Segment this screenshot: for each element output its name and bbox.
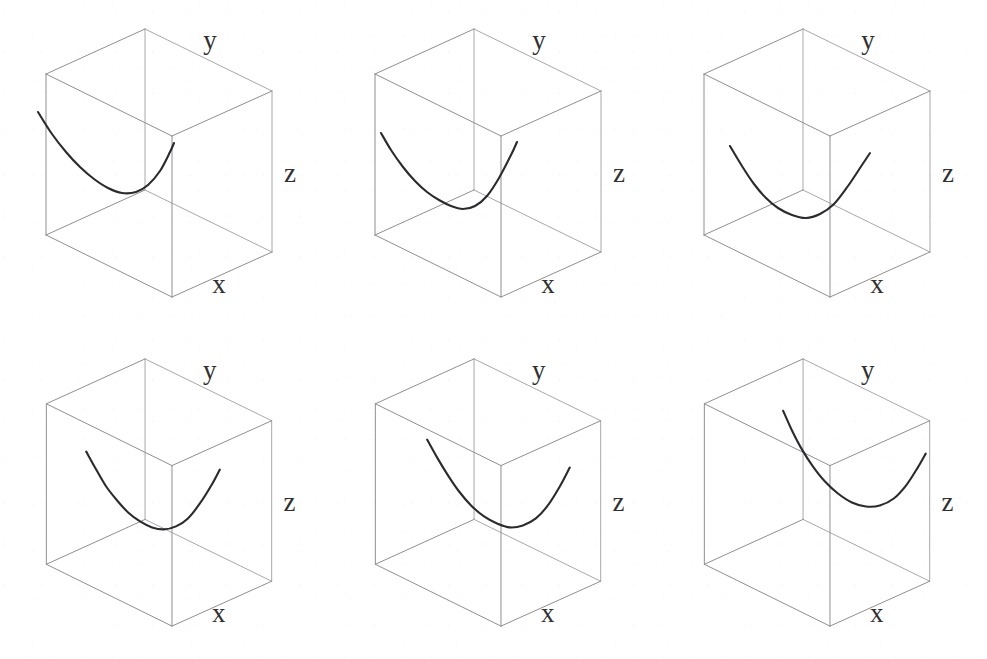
cube-edge-depth-bottom-left xyxy=(375,190,474,235)
cube-edge-bottom-back xyxy=(474,190,601,252)
parabola-curve-3 xyxy=(730,146,870,218)
axis-label-z: z xyxy=(613,487,625,517)
wireframe-cube xyxy=(375,359,600,626)
cube-edge-depth-bottom-left xyxy=(704,519,803,564)
cube-edge-depth-top-right xyxy=(501,91,601,136)
cube-plot-1: yzx xyxy=(0,0,329,330)
axis-label-z: z xyxy=(613,158,625,188)
cube-edge-bottom-front xyxy=(46,564,172,626)
axis-label-x: x xyxy=(870,269,884,299)
cube-edge-bottom-front xyxy=(704,235,830,297)
figure-grid: yzxyzxyzxyzxyzxyzx xyxy=(0,0,987,659)
axis-label-y: y xyxy=(532,25,546,55)
cube-edge-top-front xyxy=(46,74,172,136)
cube-edge-bottom-back xyxy=(474,519,601,581)
wireframe-cube xyxy=(704,359,929,626)
cube-edge-depth-top-right xyxy=(830,91,930,136)
axis-label-x: x xyxy=(870,598,884,628)
cube-plot-4: yzx xyxy=(0,330,329,659)
cube-panel-3: yzx xyxy=(658,0,987,330)
wireframe-cube xyxy=(704,29,930,297)
parabola-curve-5 xyxy=(427,440,570,528)
cube-plot-3: yzx xyxy=(658,0,987,330)
cube-edge-depth-top-left xyxy=(704,359,803,404)
axis-label-z: z xyxy=(942,158,954,188)
cube-plot-5: yzx xyxy=(329,330,658,659)
cube-edge-top-front xyxy=(375,74,501,136)
parabola-curve-4 xyxy=(86,452,220,530)
cube-edge-depth-top-right xyxy=(830,421,930,466)
cube-edge-bottom-back xyxy=(803,519,930,581)
cube-edge-depth-bottom-left xyxy=(46,190,145,235)
cube-panel-2: yzx xyxy=(329,0,658,330)
cube-edge-depth-top-right xyxy=(501,421,601,466)
cube-panel-4: yzx xyxy=(0,330,329,659)
axis-label-z: z xyxy=(284,487,296,517)
axis-label-z: z xyxy=(942,487,954,517)
parabola-curve-6 xyxy=(783,411,926,507)
cube-edge-top-front xyxy=(375,404,501,466)
cube-edge-depth-top-left xyxy=(46,29,145,74)
cube-edge-depth-top-left xyxy=(375,359,474,404)
cube-panel-1: yzx xyxy=(0,0,329,330)
axis-label-y: y xyxy=(861,355,875,385)
axis-label-y: y xyxy=(203,355,217,385)
cube-edge-depth-bottom-left xyxy=(375,519,474,564)
cube-edge-top-front xyxy=(704,74,830,136)
cube-edge-bottom-back xyxy=(145,190,272,252)
cube-edge-depth-top-left xyxy=(704,29,803,74)
wireframe-cube xyxy=(46,359,271,626)
wireframe-cube xyxy=(375,29,601,297)
axis-label-x: x xyxy=(212,269,226,299)
cube-edge-depth-top-left xyxy=(375,29,474,74)
cube-edge-bottom-back xyxy=(803,190,930,252)
cube-edge-bottom-front xyxy=(704,564,830,626)
cube-edge-depth-top-right xyxy=(172,421,272,466)
cube-edge-bottom-front xyxy=(375,235,501,297)
axis-label-x: x xyxy=(541,598,555,628)
cube-edge-depth-bottom-left xyxy=(46,519,145,564)
cube-edge-bottom-front xyxy=(46,235,172,297)
axis-label-y: y xyxy=(532,355,546,385)
cube-edge-depth-top-right xyxy=(172,91,272,136)
axis-label-x: x xyxy=(212,598,226,628)
parabola-curve-1 xyxy=(38,112,174,193)
cube-edge-depth-top-left xyxy=(46,359,145,404)
parabola-curve-2 xyxy=(381,133,517,209)
cube-edge-top-front xyxy=(704,404,830,466)
cube-panel-5: yzx xyxy=(329,330,658,659)
wireframe-cube xyxy=(46,29,272,297)
axis-label-y: y xyxy=(861,25,875,55)
axis-label-y: y xyxy=(203,25,217,55)
cube-plot-6: yzx xyxy=(658,330,987,659)
axis-label-z: z xyxy=(284,158,296,188)
cube-edge-top-front xyxy=(46,404,172,466)
cube-panel-6: yzx xyxy=(658,330,987,659)
axis-label-x: x xyxy=(541,269,555,299)
cube-plot-2: yzx xyxy=(329,0,658,330)
cube-edge-bottom-front xyxy=(375,564,501,626)
